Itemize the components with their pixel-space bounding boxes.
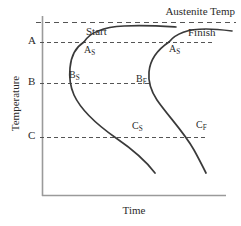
y-axis-title: Temperature [10, 56, 21, 152]
finish-curve-label: Finish [188, 27, 216, 38]
start-curve-nose-and-tail [70, 42, 155, 173]
ttt-diagram-figure: Austenite Temp Start Finish AS AS BS BF … [0, 0, 241, 226]
point-label-as-finish-sub: S [176, 48, 180, 56]
point-label-cf-sub: F [203, 124, 207, 132]
point-label-cs: CS [132, 121, 143, 131]
y-axis-tick-label-a: A [28, 35, 36, 46]
point-label-bs: BS [69, 70, 80, 80]
point-label-cf-base: C [196, 119, 203, 130]
x-axis-title: Time [42, 205, 226, 216]
point-label-cf: CF [196, 120, 207, 130]
point-label-cs-base: C [132, 120, 139, 131]
start-curve-label: Start [86, 26, 107, 37]
austenite-temp-label: Austenite Temp [165, 6, 235, 17]
y-axis-tick-label-b: B [28, 76, 35, 87]
point-label-as-finish: AS [169, 44, 180, 54]
point-label-bs-sub: S [76, 74, 80, 82]
point-label-as-start: AS [84, 45, 95, 55]
finish-curve-nose-and-tail [149, 42, 206, 173]
point-label-cs-sub: S [139, 125, 143, 133]
point-label-as-start-sub: S [91, 49, 95, 57]
point-label-bf-base: B [136, 73, 143, 84]
point-label-bf: BF [136, 74, 147, 84]
point-label-bf-sub: F [143, 78, 147, 86]
y-axis-tick-label-c: C [28, 130, 35, 141]
point-label-bs-base: B [69, 69, 76, 80]
